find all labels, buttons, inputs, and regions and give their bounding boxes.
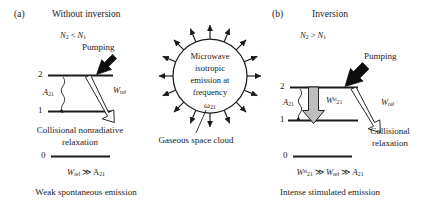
panel-b-pumping-label: Pumping	[364, 52, 397, 61]
panel-a-title: Without inversion	[52, 10, 121, 20]
panel-a-conclusion: Weak spontaneous emission	[35, 188, 136, 197]
panel-b-population-condition: N2 > N1	[300, 31, 326, 41]
panel-b-inequality: Wst21 ≫ Wrel ≫ A21	[296, 168, 363, 178]
panel-b-stimulated-label: Wst21	[326, 96, 342, 106]
cloud-frequency-label: ω21	[204, 101, 216, 111]
figure-canvas: (a) Without inversion N2 < N1 Pumping 2 …	[0, 0, 438, 210]
panel-a-inequality: Wrel ≫ A21	[67, 168, 105, 178]
panel-a-tag: (a)	[14, 10, 25, 20]
cloud-text-line4: frequency	[193, 88, 227, 97]
panel-b-level-1-label: 1	[280, 115, 285, 124]
cloud-callout-label: Gaseous space cloud	[159, 136, 234, 145]
panel-a-level-0-label: 0	[41, 151, 46, 160]
cloud-text-line2: isotropic	[195, 64, 225, 73]
pumping-arrow-a	[97, 55, 117, 75]
panel-a-level-1-label: 1	[38, 106, 43, 115]
panel-b-title: Inversion	[312, 10, 348, 20]
panel-a-relaxation-caption-line2: relaxation	[62, 138, 98, 147]
panel-b-tag: (b)	[272, 10, 283, 20]
spontaneous-emission-arrow-a	[61, 77, 64, 113]
cloud-callout-leader	[196, 110, 206, 133]
panel-b-levels	[288, 88, 358, 157]
cloud-text-line1: Microwave	[190, 52, 229, 61]
panel-b-relaxation-label: Wrel	[381, 98, 394, 108]
panel-b-level-0-label: 0	[283, 151, 288, 160]
panel-a-pumping-label: Pumping	[82, 43, 115, 52]
stimulated-emission-arrow-b	[303, 87, 325, 124]
spontaneous-emission-arrow-b	[298, 89, 301, 121]
panel-b-level-2-label: 2	[280, 82, 285, 91]
panel-a-population-condition: N2 < N1	[60, 31, 86, 41]
panel-b-relaxation-caption-line1: Collisional	[370, 127, 410, 136]
pumping-arrow-b	[345, 63, 369, 87]
panel-b-spontaneous-label: A21	[283, 98, 294, 108]
panel-b-conclusion: Intense stimulated emission	[280, 188, 380, 197]
panel-a-relaxation-label: Wrel	[113, 86, 126, 96]
cloud-text-line3: emission at	[191, 76, 230, 85]
panel-b-relaxation-caption-line2: relaxation	[372, 139, 408, 148]
panel-a-relaxation-caption-line1: Collisional nonradiative	[37, 126, 124, 135]
panel-a-spontaneous-label: A21	[43, 88, 54, 98]
panel-a-level-2-label: 2	[38, 70, 43, 79]
relaxation-arrow-a	[86, 75, 115, 123]
